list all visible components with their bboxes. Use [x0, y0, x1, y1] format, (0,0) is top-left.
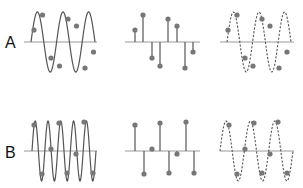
- sampling-diagram: A B: [0, 0, 303, 188]
- sample-dot: [48, 146, 53, 151]
- sampled-stems-a: [125, 12, 200, 70]
- sample-dot: [56, 120, 61, 125]
- stem-dot: [182, 65, 187, 70]
- continuous-signal-a: [24, 12, 97, 72]
- row-b: [24, 119, 294, 181]
- stem-dot: [149, 55, 154, 60]
- sample-dot: [251, 120, 256, 125]
- reconstructed-signal-b: [220, 119, 294, 181]
- sample-dot: [234, 171, 239, 176]
- sample-dot: [234, 12, 239, 17]
- stem-dot: [174, 151, 179, 156]
- stem-dot: [149, 146, 154, 151]
- sample-dot: [91, 49, 96, 54]
- stem-dot: [141, 171, 146, 176]
- sample-dot: [73, 151, 78, 156]
- sample-dot: [225, 27, 230, 32]
- sample-dot: [90, 170, 95, 175]
- sample-dot: [64, 170, 69, 175]
- sample-dot: [39, 171, 44, 176]
- sample-dot: [226, 122, 231, 127]
- sample-dot: [284, 49, 289, 54]
- row-label-b: B: [5, 144, 16, 161]
- stem-dot: [132, 122, 137, 127]
- stem-dot: [132, 27, 137, 32]
- stem-dot: [174, 23, 179, 28]
- stem-dot: [157, 63, 162, 68]
- sample-dot: [267, 23, 272, 28]
- sampled-stems-b: [125, 119, 200, 176]
- stem-dot: [165, 16, 170, 21]
- sample-dot: [276, 65, 281, 70]
- row-a: [24, 12, 294, 72]
- sample-dot: [250, 63, 255, 68]
- reconstructed-signal-a: [220, 12, 294, 72]
- row-label-a: A: [5, 34, 16, 51]
- continuous-signal-b: [24, 119, 97, 181]
- sample-dot: [48, 55, 53, 60]
- sample-dot: [31, 27, 36, 32]
- sample-dot: [242, 55, 247, 60]
- sample-dot: [242, 146, 247, 151]
- sample-dot: [82, 65, 87, 70]
- sample-dot: [74, 23, 79, 28]
- sample-dot: [65, 16, 70, 21]
- sample-dot: [267, 151, 272, 156]
- sample-dot: [259, 170, 264, 175]
- stem-dot: [191, 170, 196, 175]
- sample-dot: [81, 119, 86, 124]
- sample-dot: [40, 12, 45, 17]
- sample-dot: [57, 63, 62, 68]
- stem-dot: [140, 12, 145, 17]
- sample-dot: [259, 16, 264, 21]
- stem-dot: [166, 170, 171, 175]
- sample-dot: [275, 119, 280, 124]
- stem-dot: [183, 119, 188, 124]
- sample-dot: [31, 122, 36, 127]
- stem-dot: [190, 49, 195, 54]
- stem-dot: [157, 120, 162, 125]
- sample-dot: [284, 170, 289, 175]
